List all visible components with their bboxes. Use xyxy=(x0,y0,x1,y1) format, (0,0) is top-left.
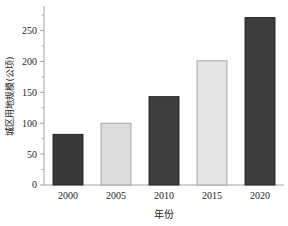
x-tick-label-2015: 2015 xyxy=(202,190,222,201)
y-tick-label-0: 0 xyxy=(32,179,37,190)
x-axis-title: 年份 xyxy=(154,208,174,220)
y-tick-label-100: 100 xyxy=(22,118,37,129)
chart-svg: 050100150200250 20002005201020152020 年份 … xyxy=(0,0,288,226)
bar-2015[interactable] xyxy=(197,61,227,185)
y-tick-label-250: 250 xyxy=(22,25,37,36)
bar-chart-figure: 050100150200250 20002005201020152020 年份 … xyxy=(0,0,288,226)
x-tick-label-2005: 2005 xyxy=(106,190,126,201)
x-tick-label-2010: 2010 xyxy=(154,190,174,201)
y-tick-label-200: 200 xyxy=(22,56,37,67)
bar-2020[interactable] xyxy=(245,18,275,185)
y-tick-label-50: 50 xyxy=(27,149,37,160)
x-tick-label-2000: 2000 xyxy=(58,190,78,201)
y-tick-label-150: 150 xyxy=(22,87,37,98)
bar-2005[interactable] xyxy=(101,123,131,185)
y-axis-title: 城区用地规模(公顷) xyxy=(4,56,15,135)
bar-2000[interactable] xyxy=(53,134,83,185)
x-tick-label-2020: 2020 xyxy=(250,190,270,201)
bar-2010[interactable] xyxy=(149,97,179,185)
